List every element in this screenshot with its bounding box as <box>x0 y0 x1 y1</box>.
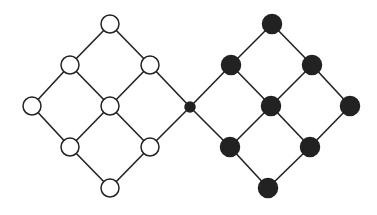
open-node <box>101 179 119 197</box>
open-node <box>141 56 159 74</box>
filled-node <box>262 97 281 116</box>
open-node <box>23 97 41 115</box>
open-node <box>61 56 79 74</box>
open-node <box>61 138 79 156</box>
filled-node <box>263 15 282 34</box>
filled-node <box>185 102 195 112</box>
filled-node <box>222 56 241 75</box>
open-node <box>101 97 119 115</box>
open-node <box>141 138 159 156</box>
open-node <box>101 15 119 33</box>
filled-node <box>259 179 278 198</box>
filled-node <box>341 97 360 116</box>
filled-node <box>303 56 322 75</box>
nodes <box>23 15 360 198</box>
filled-node <box>221 138 240 157</box>
filled-node <box>301 138 320 157</box>
lattice-diagram <box>0 0 377 215</box>
